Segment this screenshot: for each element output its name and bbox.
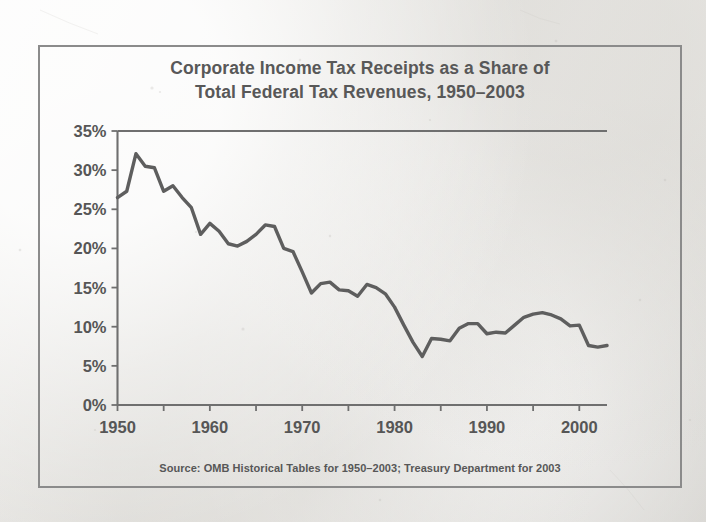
axis-lines <box>118 131 608 405</box>
plot-area: 0%5%10%15%20%25%30%35% 19501960197019801… <box>0 0 706 522</box>
x-axis-label-1950: 1950 <box>99 418 136 436</box>
x-axis-label-1980: 1980 <box>376 418 413 436</box>
y-axis-label-5%: 5% <box>83 357 107 375</box>
x-axis-labels: 195019601970198019902000 <box>99 418 598 436</box>
y-axis-label-30%: 30% <box>73 161 106 179</box>
x-axis-label-1960: 1960 <box>191 418 228 436</box>
y-axis-label-10%: 10% <box>73 318 106 336</box>
y-axis-label-35%: 35% <box>73 122 106 140</box>
y-axis-label-0%: 0% <box>83 396 107 414</box>
line-chart-svg: 0%5%10%15%20%25%30%35% 19501960197019801… <box>0 0 706 522</box>
y-axis-label-15%: 15% <box>73 279 106 297</box>
x-axis-label-2000: 2000 <box>561 418 598 436</box>
x-axis-label-1970: 1970 <box>284 418 321 436</box>
y-axis-label-20%: 20% <box>73 239 106 257</box>
source-note: Source: OMB Historical Tables for 1950–2… <box>38 462 682 474</box>
y-axis-labels: 0%5%10%15%20%25%30%35% <box>73 122 106 414</box>
data-line-corporate-tax-share <box>118 154 608 357</box>
x-axis-label-1990: 1990 <box>469 418 506 436</box>
y-axis-label-25%: 25% <box>73 200 106 218</box>
